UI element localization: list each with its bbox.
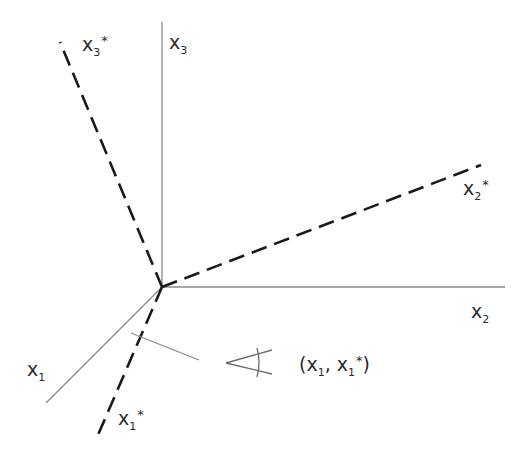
label-x1-star: x1*	[118, 408, 144, 432]
axis-x2-star	[162, 165, 481, 287]
angle-label: (x1, x1*)	[299, 354, 370, 378]
label-x3-star: x3*	[82, 34, 108, 58]
axis-x3-star	[60, 42, 162, 287]
angle-icon	[226, 348, 272, 377]
axis-x1	[46, 287, 162, 403]
axis-rotation-diagram	[0, 0, 531, 457]
angle-marker-line	[131, 333, 199, 360]
label-x2-star: x2*	[463, 178, 489, 202]
label-x1: x1	[27, 360, 45, 383]
label-x3: x3	[169, 33, 187, 56]
label-x2: x2	[471, 302, 489, 325]
